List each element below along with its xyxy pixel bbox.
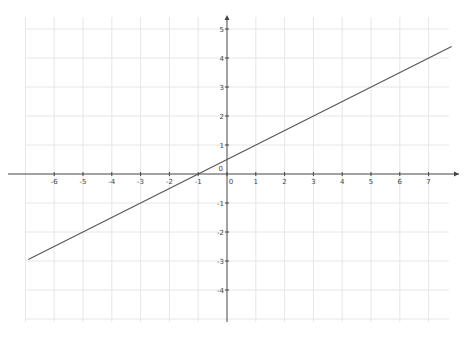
- x-tick-label: -3: [137, 178, 144, 186]
- grid-lines: [25, 17, 449, 322]
- plotted-line[interactable]: [28, 46, 451, 259]
- tick-labels: -6-5-4-3-2-101234567-4-3-2-1012345: [51, 26, 431, 295]
- x-tick-label: 7: [426, 178, 430, 186]
- x-tick-label: -1: [195, 178, 202, 186]
- origin-label: 0: [219, 165, 223, 173]
- y-tick-label: 2: [220, 113, 224, 121]
- y-tick-label: 5: [220, 26, 224, 34]
- x-axis-arrow-icon: [454, 172, 459, 177]
- x-tick-label: -2: [166, 178, 173, 186]
- x-tick-label: 0: [229, 178, 233, 186]
- function-line[interactable]: [28, 46, 451, 259]
- y-tick-label: 1: [220, 142, 224, 150]
- y-tick-label: 3: [220, 84, 224, 92]
- x-tick-label: -6: [51, 178, 59, 186]
- y-tick-label: -4: [217, 287, 225, 295]
- x-tick-label: 5: [369, 178, 373, 186]
- x-tick-label: -4: [108, 178, 116, 186]
- x-tick-label: 1: [254, 178, 258, 186]
- x-tick-label: 4: [340, 178, 345, 186]
- x-tick-label: 6: [398, 178, 403, 186]
- y-axis-arrow-icon: [225, 15, 230, 20]
- y-tick-label: 4: [220, 55, 225, 63]
- axes: [8, 15, 459, 322]
- x-tick-label: 3: [311, 178, 315, 186]
- graph-plot[interactable]: -6-5-4-3-2-101234567-4-3-2-1012345: [0, 0, 470, 341]
- x-tick-label: 2: [282, 178, 286, 186]
- y-tick-label: -3: [217, 258, 224, 266]
- x-tick-label: -5: [80, 178, 87, 186]
- y-tick-label: -2: [217, 229, 224, 237]
- y-tick-label: -1: [217, 200, 224, 208]
